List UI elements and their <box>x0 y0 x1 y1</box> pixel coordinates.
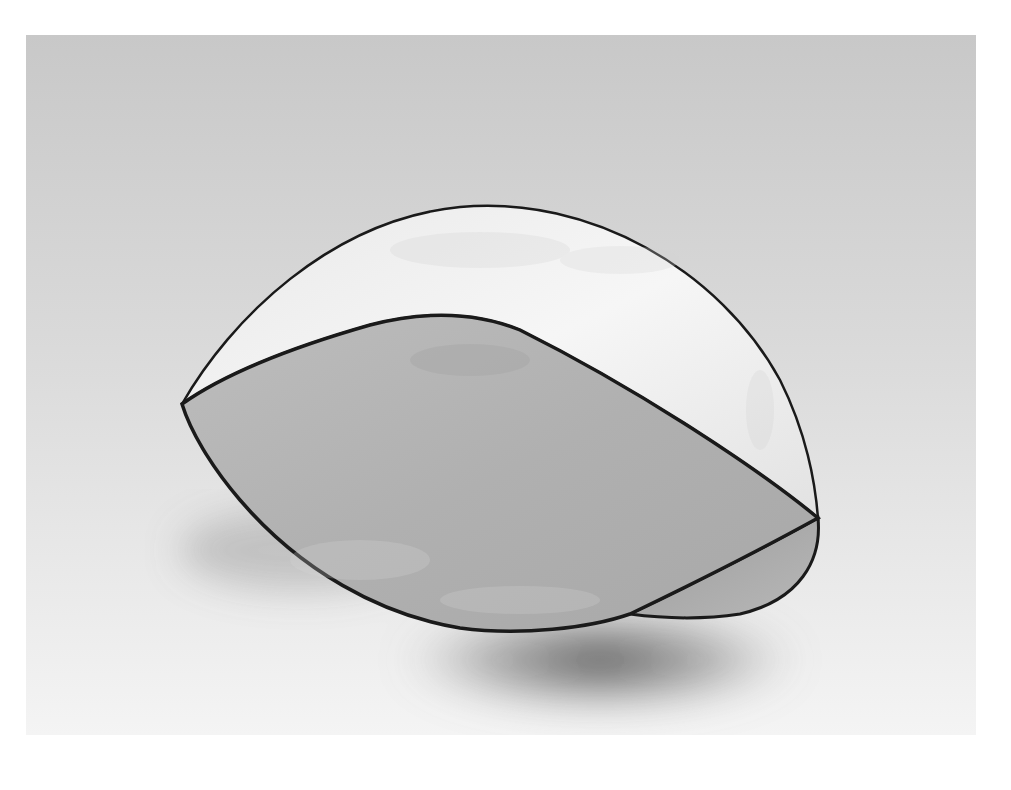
photograph <box>26 35 976 735</box>
sculpture-photo <box>26 35 976 735</box>
